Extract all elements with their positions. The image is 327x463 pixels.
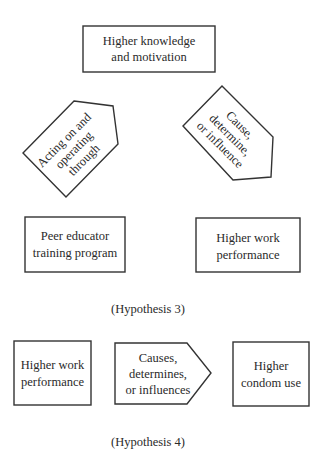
hypothesis-3-diagram: Higher knowledge and motivation Acting o… (23, 26, 300, 316)
knowledge-motivation-box-border (83, 26, 215, 72)
peer-educator-box-border (25, 217, 125, 272)
hypothesis-4-caption: (Hypothesis 4) (111, 435, 185, 449)
h4-condom-use-label-line2: condom use (241, 376, 302, 390)
h4-causes-arrow: Causes, determines, or influences (115, 343, 211, 404)
acting-on-arrow: Acting on and operating through (23, 101, 118, 197)
cause-determine-arrow: Cause, determine, or influence (183, 86, 273, 180)
work-performance-label-line1: Higher work (216, 231, 280, 245)
peer-educator-label-line1: Peer educator (41, 229, 110, 243)
work-performance-label-line2: performance (216, 248, 280, 262)
h4-work-performance-label-line1: Higher work (21, 358, 85, 372)
peer-educator-box: Peer educator training program (25, 217, 125, 272)
h4-condom-use-box: Higher condom use (233, 342, 309, 406)
hypothesis-4-diagram: Higher work performance Causes, determin… (14, 341, 309, 449)
h4-work-performance-box-border (14, 341, 91, 405)
h4-condom-use-box-border (233, 342, 309, 406)
hypothesis-3-caption: (Hypothesis 3) (111, 302, 185, 316)
h4-causes-label-line3: or influences (126, 383, 191, 397)
h4-work-performance-box: Higher work performance (14, 341, 91, 405)
work-performance-box-border (196, 218, 300, 272)
h4-causes-label-line2: determines, (129, 367, 187, 381)
h4-causes-label-line1: Causes, (139, 351, 178, 365)
h4-work-performance-label-line2: performance (21, 375, 85, 389)
knowledge-motivation-box: Higher knowledge and motivation (83, 26, 215, 72)
h4-condom-use-label-line1: Higher (254, 359, 290, 373)
peer-educator-label-line2: training program (33, 246, 118, 260)
work-performance-box: Higher work performance (196, 218, 300, 272)
knowledge-motivation-label-line1: Higher knowledge (103, 34, 196, 48)
knowledge-motivation-label-line2: and motivation (111, 50, 187, 64)
hypothesis-diagram: Higher knowledge and motivation Acting o… (0, 0, 327, 463)
